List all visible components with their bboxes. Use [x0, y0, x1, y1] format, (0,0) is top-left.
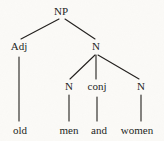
- tree-terminal-women: women: [121, 125, 153, 136]
- tree-node-n_right: N: [137, 81, 145, 92]
- syntax-tree-figure: NPAdjNNconjN oldmenandwomen: [0, 0, 164, 141]
- tree-node-n_top: N: [92, 41, 100, 52]
- tree-node-np: NP: [54, 6, 68, 17]
- tree-edges: [0, 0, 164, 141]
- tree-node-n_left: N: [65, 81, 73, 92]
- tree-node-conj: conj: [88, 81, 107, 92]
- tree-edge-n_top-to-n_right: [98, 55, 139, 79]
- tree-terminal-old: old: [13, 125, 27, 136]
- tree-terminal-and: and: [91, 125, 107, 136]
- tree-edge-np-to-n_top: [65, 19, 95, 39]
- tree-edge-n_top-to-n_left: [70, 55, 95, 79]
- tree-edge-np-to-adj: [21, 19, 59, 39]
- tree-node-adj: Adj: [11, 41, 28, 52]
- tree-terminal-men: men: [60, 125, 79, 136]
